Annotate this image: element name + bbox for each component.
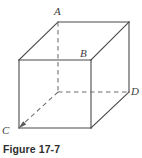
figure-caption: Figure 17-7 [3,143,60,155]
c-arrowhead [19,121,27,128]
cube-diagram [0,0,142,158]
vertex-label-c: C [2,125,9,136]
c-arrow-shaft [23,92,59,125]
edge-depth-bottom-right [91,92,129,128]
vertex-label-a: A [54,6,61,17]
edge-depth-top-right [91,22,129,60]
vertex-label-b: B [80,48,87,59]
edge-depth-top-left [19,22,58,60]
c-pointer-annotation [19,92,58,128]
solid-edges [19,22,129,128]
vertex-label-d: D [131,86,139,97]
figure-container: A B C D Figure 17-7 [0,0,142,158]
